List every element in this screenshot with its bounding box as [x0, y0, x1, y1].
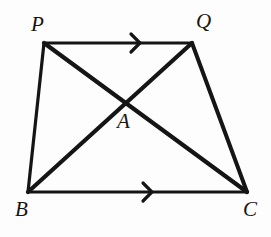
- vertex-label-Q: Q: [196, 11, 211, 32]
- vertex-label-P: P: [31, 14, 44, 35]
- geometry-figure: P Q A B C: [0, 0, 271, 237]
- vertex-label-C: C: [243, 199, 257, 220]
- vertex-label-B: B: [15, 199, 28, 220]
- vertex-label-A: A: [117, 111, 130, 132]
